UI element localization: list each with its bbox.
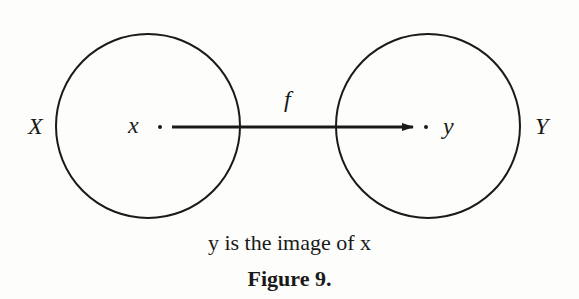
point-y-dot xyxy=(424,125,428,129)
figure-number: Figure 9. xyxy=(0,268,579,290)
point-y-label: y xyxy=(443,114,454,138)
domain-set-label: X xyxy=(28,114,43,138)
function-label: f xyxy=(284,87,291,111)
point-x-dot xyxy=(158,125,162,129)
figure-caption: y is the image of x xyxy=(0,232,579,254)
point-x-label: x xyxy=(128,113,139,137)
codomain-set-label: Y xyxy=(535,114,548,138)
